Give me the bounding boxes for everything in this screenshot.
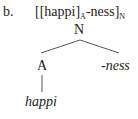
tree-node-left: A [37, 59, 47, 73]
tree-node-right: -ness [101, 59, 130, 73]
branch-right [80, 40, 119, 53]
tree-leaf: happi [25, 95, 57, 109]
branch-left [41, 40, 80, 53]
tree-node-root: N [74, 23, 84, 37]
